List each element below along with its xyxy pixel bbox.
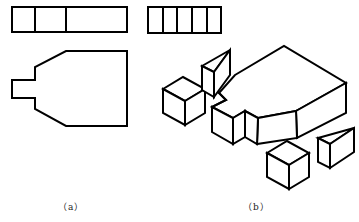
caption-a: （a）: [58, 200, 84, 213]
isometric-plate: [212, 46, 346, 144]
wedge-lower: [318, 128, 354, 168]
front-view-plate: [12, 51, 127, 126]
panel-a-drawing: [12, 7, 127, 126]
panel-b-drawing: [148, 7, 354, 189]
top-view-strip-a: [12, 7, 127, 32]
caption-b: （b）: [243, 200, 270, 213]
cube-lower: [267, 141, 309, 189]
technical-drawing: [0, 0, 359, 222]
top-view-strip-b: [148, 7, 221, 33]
cube-left: [163, 77, 205, 125]
